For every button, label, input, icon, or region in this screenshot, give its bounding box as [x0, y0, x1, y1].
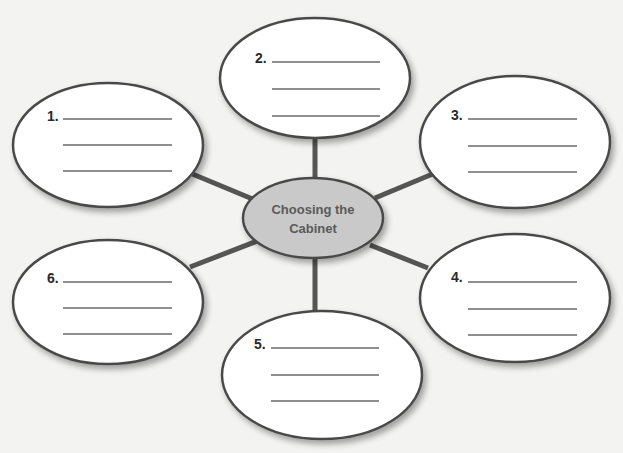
- center-title-line-2: Cabinet: [289, 221, 337, 236]
- connector-1: [190, 173, 255, 200]
- node-3: 3.: [420, 76, 610, 208]
- node-6: 6.: [13, 240, 203, 364]
- node-4: 4.: [420, 234, 610, 362]
- node-5-number: 5.: [254, 336, 266, 352]
- node-2-number: 2.: [255, 50, 267, 66]
- node-6-number: 6.: [47, 270, 59, 286]
- node-1: 1.: [13, 83, 203, 207]
- node-3-number: 3.: [451, 107, 463, 123]
- node-1-number: 1.: [47, 108, 59, 124]
- diagram-canvas: 1. 2. 3. 4.: [0, 0, 623, 453]
- node-4-number: 4.: [451, 269, 463, 285]
- node-5: 5.: [222, 311, 422, 439]
- center-title-line-1: Choosing the: [271, 202, 354, 217]
- node-2: 2.: [220, 18, 410, 138]
- center-node: Choosing the Cabinet: [243, 178, 383, 258]
- connector-4: [370, 245, 428, 268]
- connector-3: [375, 173, 435, 198]
- concept-web-diagram: 1. 2. 3. 4.: [0, 0, 623, 453]
- connector-6: [190, 240, 260, 267]
